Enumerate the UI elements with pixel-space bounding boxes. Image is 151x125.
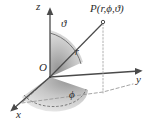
spherical-coordinates-figure: z y x O P(r,ϕ,ϑ) r ϑ ϕ xyxy=(0,0,151,125)
point-p-marker xyxy=(101,20,104,23)
origin-marker xyxy=(49,76,51,78)
y-axis-line xyxy=(50,71,139,77)
azimuth-angle-label: ϕ xyxy=(69,89,75,100)
polar-angle-label: ϑ xyxy=(61,18,66,29)
y-axis-label: y xyxy=(136,74,141,85)
radius-label: r xyxy=(75,47,79,57)
x-axis-label: x xyxy=(16,109,21,120)
diagram-canvas xyxy=(0,0,151,125)
origin-label: O xyxy=(39,62,47,73)
z-axis-label: z xyxy=(36,1,40,12)
point-p-label: P(r,ϕ,ϑ) xyxy=(90,3,124,14)
